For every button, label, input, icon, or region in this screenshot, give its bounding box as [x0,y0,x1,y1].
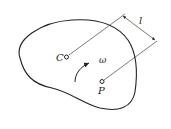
rigid-body-outline [19,20,136,110]
diagram-canvas: C P ω l [0,0,171,129]
label-omega: ω [99,55,107,65]
label-c: C [56,52,64,63]
extension-line-p [104,41,157,80]
label-p: P [97,85,105,96]
diagram-svg: C P ω l [0,0,171,129]
label-l: l [139,15,142,26]
point-p-marker [100,80,104,84]
point-c-marker [65,55,69,59]
angular-velocity-arrow-icon [75,63,89,82]
